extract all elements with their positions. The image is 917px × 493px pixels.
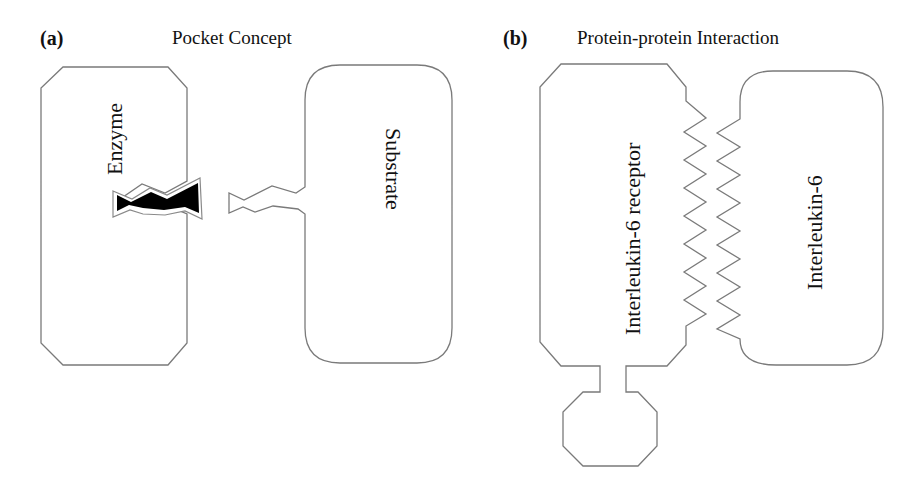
panel-a: (a) Pocket Concept Enzyme Substrate: [40, 27, 452, 365]
diagram-canvas: (a) Pocket Concept Enzyme Substrate (b) …: [0, 0, 917, 493]
substrate-shape: [229, 65, 452, 363]
enzyme-label: Enzyme: [102, 103, 127, 175]
panel-a-title: Pocket Concept: [172, 27, 293, 48]
panel-b-label: (b): [503, 27, 527, 50]
interleukin-6-shape: [717, 71, 883, 365]
panel-b: (b) Protein-protein Interaction Interleu…: [503, 27, 883, 466]
interleukin-6-label: Interleukin-6: [802, 175, 827, 290]
substrate-label: Substrate: [381, 128, 406, 210]
panel-b-title: Protein-protein Interaction: [577, 27, 780, 48]
interleukin-6-receptor-label: Interleukin-6 receptor: [620, 142, 645, 335]
panel-a-label: (a): [40, 27, 63, 50]
